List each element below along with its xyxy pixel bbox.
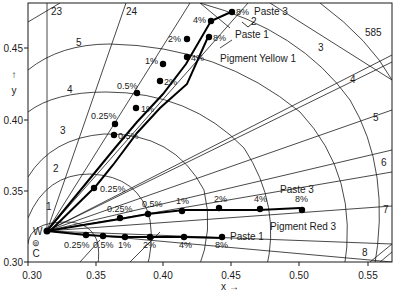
- x-tick-0.55: 0.55: [358, 270, 378, 281]
- chroma-contour-2: [28, 174, 151, 270]
- hue-label-2: 2: [251, 16, 257, 27]
- yp1-label-0.5: 0.5%: [118, 131, 139, 141]
- rp1-label-2: 2%: [143, 240, 156, 250]
- chroma-label-2: 2: [53, 163, 59, 174]
- chromaticity-chart: 0.30 0.35 0.40 0.45 0.50 0.55 0.30 0.35 …: [0, 0, 399, 291]
- hue-line-12: [370, 244, 392, 262]
- hue-label-24: 24: [126, 6, 138, 17]
- w-point-label: W: [33, 226, 43, 237]
- c-point-icon: ⊚: [32, 238, 40, 248]
- x-tick-0.35: 0.35: [86, 270, 106, 281]
- rp1-label-0.5: 0.5%: [93, 240, 114, 250]
- rp1-label-1: 1%: [118, 240, 131, 250]
- x-axis-title: x →: [221, 281, 239, 291]
- yellow-paste3-label: Paste 3: [254, 6, 288, 17]
- chroma-label-4: 4: [67, 84, 73, 95]
- y-tick-0.45: 0.45: [4, 43, 24, 54]
- rp3-label-8: 8%: [295, 194, 308, 204]
- x-tick-0.50: 0.50: [289, 270, 309, 281]
- rp1-label-0.25: 0.25%: [64, 240, 90, 250]
- rp1-label-4: 4%: [179, 240, 192, 250]
- point-labels: 0.25% 0.5% 1% 2% 4% 8% 0.25% 0.5% 1% 2% …: [64, 7, 308, 250]
- yp3-label-2: 2%: [168, 34, 181, 44]
- yp1-label-4: 4%: [191, 53, 204, 63]
- yp3-label-0.5: 0.5%: [117, 81, 138, 91]
- rp3-label-2: 2%: [214, 194, 227, 204]
- hue-label-5: 5: [373, 112, 379, 123]
- y-tick-0.35: 0.35: [4, 186, 24, 197]
- hue-label-23: 23: [51, 6, 63, 17]
- w-point-marker: [44, 228, 51, 235]
- hue-label-6: 6: [381, 157, 387, 168]
- y-tick-0.30: 0.30: [4, 257, 24, 268]
- hue-label-4: 4: [350, 74, 356, 85]
- rp3-label-0.5: 0.5%: [142, 199, 163, 209]
- chroma-label-5: 5: [76, 37, 82, 48]
- yellow-pigment-label: Pigment Yellow 1: [220, 53, 297, 64]
- rp1-label-8: 8%: [215, 240, 228, 250]
- y-axis: [24, 48, 28, 262]
- munsell-grid: [28, 3, 392, 270]
- hue-line-4: [47, 110, 392, 231]
- x-tick-0.40: 0.40: [153, 270, 173, 281]
- hue-label-7: 7: [383, 204, 389, 215]
- rp3-label-0.25: 0.25%: [107, 204, 133, 214]
- red-paste1-label: Paste 1: [230, 231, 264, 242]
- rp3-label-1: 1%: [176, 196, 189, 206]
- chroma-label-3: 3: [60, 125, 66, 136]
- yellow-paste1-label: Paste 1: [235, 29, 269, 40]
- x-axis: [28, 262, 368, 266]
- hue-line-13: [380, 252, 392, 262]
- red-paste3-label: Paste 3: [280, 184, 314, 195]
- y-axis-title: y: [12, 85, 17, 96]
- yp3-label-8: 8%: [236, 7, 249, 17]
- red-pigment-label: Pigment Red 3: [270, 221, 337, 232]
- yp1-label-2: 2%: [164, 77, 177, 87]
- chroma-label-1: 1: [46, 201, 52, 212]
- hue-label-3: 3: [318, 42, 324, 53]
- yp1-label-8: 8%: [213, 33, 226, 43]
- x-tick-labels: 0.30 0.35 0.40 0.45 0.50 0.55: [22, 270, 378, 281]
- grid-labels: 23 24 2 585 3 4 5 6 7 8 1 2 3 4 5: [46, 6, 389, 258]
- yp3-label-4: 4%: [193, 15, 206, 25]
- y-tick-0.40: 0.40: [4, 115, 24, 126]
- plot-frame: [28, 3, 392, 262]
- rp3-label-4: 4%: [254, 194, 267, 204]
- yp3-label-1: 1%: [145, 56, 158, 66]
- y-axis-arrow-icon: ↑: [12, 69, 17, 80]
- yp1-label-0.25: 0.25%: [100, 184, 126, 194]
- hue-label-8: 8: [362, 247, 368, 258]
- c-point-label: C: [32, 248, 39, 259]
- yp3-label-0.25: 0.25%: [91, 111, 117, 121]
- hue-label-585: 585: [365, 27, 382, 38]
- x-tick-0.45: 0.45: [221, 270, 241, 281]
- x-tick-0.30: 0.30: [22, 270, 42, 281]
- yp1-label-1: 1%: [141, 104, 154, 114]
